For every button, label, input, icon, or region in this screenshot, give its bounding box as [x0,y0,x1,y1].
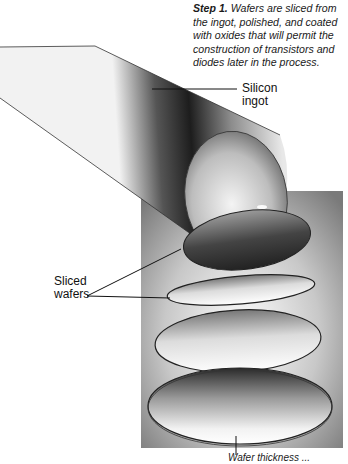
sliced-wafers-label: Sliced wafers [54,275,89,301]
wafer-thickness-label: Wafer thickness ... [228,452,310,464]
label-line: wafers [54,288,89,301]
wafer-4 [148,368,332,444]
silicon-ingot-label: Silicon ingot [242,82,277,108]
label-line: ingot [242,95,277,108]
